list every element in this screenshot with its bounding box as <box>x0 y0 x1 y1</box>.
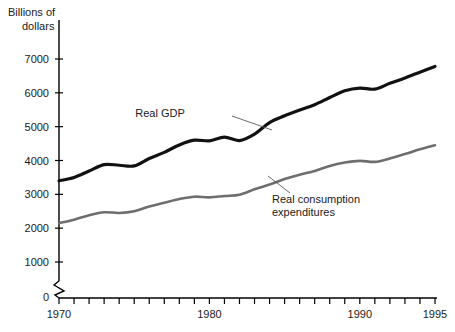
y-axis-break-symbol <box>54 281 64 298</box>
y-tick-label: 7000 <box>25 53 49 65</box>
y-tick-label: 4000 <box>25 155 49 167</box>
real-consumption-label-line-2: expenditures <box>272 206 335 218</box>
y-tick-label: 6000 <box>25 87 49 99</box>
y-axis-title-line-2: dollars <box>22 20 55 32</box>
x-tick-label: 1990 <box>348 308 372 320</box>
y-axis-title-line-1: Billions of <box>8 6 56 18</box>
chart-container: Billions of dollars 01000200030004000500… <box>0 0 455 332</box>
y-tick-label: 3000 <box>25 188 49 200</box>
y-tick-label: 0 <box>43 291 49 303</box>
real-consumption-label-line-1: Real consumption <box>272 193 360 205</box>
y-tick-label: 1000 <box>25 256 49 268</box>
series-group <box>59 66 435 223</box>
x-tick-label: 1995 <box>423 308 447 320</box>
line-chart: Billions of dollars 01000200030004000500… <box>0 0 455 332</box>
y-tick-label: 5000 <box>25 121 49 133</box>
real-gdp-label: Real GDP <box>135 107 185 119</box>
real-gdp-leader-line <box>232 116 272 130</box>
y-axis: 01000200030004000500060007000 <box>25 20 64 303</box>
x-axis: 1970198019901995 <box>47 298 447 320</box>
series-line-real-gdp <box>59 66 435 180</box>
y-tick-label: 2000 <box>25 222 49 234</box>
series-line-real-consumption <box>59 145 435 223</box>
x-tick-label: 1980 <box>197 308 221 320</box>
x-tick-label: 1970 <box>47 308 71 320</box>
